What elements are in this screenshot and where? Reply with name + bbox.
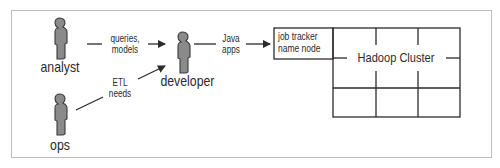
edge-label-etl-needs: ETL needs (104, 77, 137, 99)
developer-label: developer (160, 72, 209, 89)
edge-label-java-apps: Java apps (217, 33, 245, 55)
analyst-figure-icon (55, 18, 67, 59)
ops-figure-icon (55, 94, 67, 135)
developer-figure-icon (178, 32, 190, 73)
hadoop-cluster-label: Hadoop Cluster (354, 50, 439, 65)
ops-label: ops (44, 136, 77, 153)
analyst-label: analyst (39, 58, 82, 75)
edge-label-queries-models: queries, models (105, 33, 146, 55)
hadoop-cluster-grid (333, 28, 460, 117)
job-tracker-label: job tracker name node (278, 31, 321, 55)
